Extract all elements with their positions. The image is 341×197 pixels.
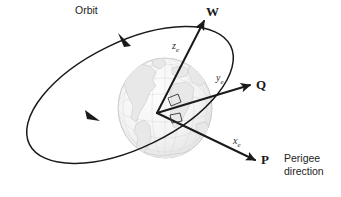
earth-globe [118,58,212,160]
x-axis-subscript: e [237,141,240,149]
p-vector-label: P [261,153,269,168]
z-axis-subscript: e [176,46,179,54]
y-axis-label: ye [216,72,224,86]
y-axis-subscript: e [220,78,223,86]
orbit-frame-figure: Orbit W Q P ze ye xe Perigee direction [0,0,341,197]
orbit-direction-arrow-lower [85,110,100,121]
orbit-label: Orbit [75,4,98,16]
q-vector-label: Q [256,78,266,93]
z-axis-label: ze [172,40,179,54]
perigee-direction-label: Perigee direction [284,152,324,178]
x-axis-label: xe [233,135,241,149]
orbit-direction-arrow-upper [118,33,131,47]
w-vector-label: W [206,5,219,20]
